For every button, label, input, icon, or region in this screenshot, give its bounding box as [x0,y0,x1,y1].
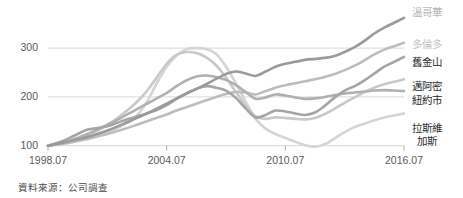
legend-label-line: 多倫多 [412,38,442,51]
y-axis-label-200: 200 [10,90,38,102]
price-index-line-chart: 100200300 1998.072004.072010.072016.07 溫… [0,0,463,198]
x-axis-label-2004.07: 2004.07 [137,154,197,166]
y-axis-label-300: 300 [10,41,38,53]
chart-plot-area [0,0,463,198]
legend-item-san-francisco: 舊金山 [412,56,442,69]
legend-label-line: 拉斯維 [412,122,442,135]
legend-item-toronto: 多倫多 [412,38,442,51]
legend-item-miami: 邁阿密 [412,80,442,93]
legend-label-line: 溫哥華 [412,6,442,19]
legend-item-vancouver: 溫哥華 [412,6,442,19]
legend-label-line: 邁阿密 [412,80,442,93]
x-axis-label-1998.07: 1998.07 [18,154,78,166]
legend-label-line: 加斯 [412,135,442,148]
x-axis-label-2010.07: 2010.07 [255,154,315,166]
legend-label-line: 舊金山 [412,56,442,69]
x-axis-label-2016.07: 2016.07 [374,154,434,166]
gridlines-group [48,48,404,146]
legend-label-line: 紐約市 [412,94,442,107]
series-lines-group [48,18,404,147]
y-axis-label-100: 100 [10,139,38,151]
source-note: 資料來源：公司調查 [18,180,108,194]
x-axis-ticks-group [48,146,404,151]
legend-item-new-york-city: 紐約市 [412,94,442,107]
legend-item-las-vegas: 拉斯維加斯 [412,122,442,147]
